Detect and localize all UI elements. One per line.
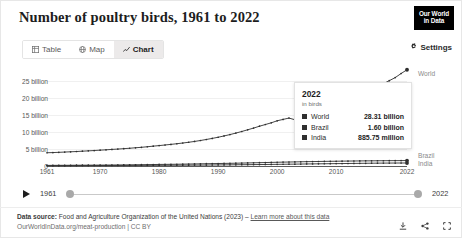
data-source-dash: –: [245, 213, 249, 220]
tab-map[interactable]: Map: [70, 41, 114, 58]
timeline-control[interactable]: 1961 2022: [0, 186, 462, 202]
data-point: [253, 164, 255, 166]
data-point: [152, 145, 154, 147]
data-point: [400, 160, 402, 162]
data-source-text: Food and Agriculture Organization of the…: [59, 213, 243, 220]
tooltip-name-india: India: [311, 134, 326, 141]
data-point: [394, 162, 396, 164]
data-source-prefix: Data source:: [17, 213, 57, 220]
swatch-world: [302, 114, 307, 119]
data-point: [306, 163, 308, 165]
data-point: [46, 152, 48, 154]
data-point: [223, 163, 225, 165]
view-tabs: Table Map Chart: [22, 40, 164, 59]
data-point: [70, 165, 72, 167]
data-point: [170, 144, 172, 146]
data-point: [105, 165, 107, 167]
data-point: [335, 160, 337, 162]
data-point: [176, 164, 178, 166]
tab-chart[interactable]: Chart: [114, 41, 163, 58]
tab-chart-label: Chart: [133, 45, 154, 54]
data-point: [276, 120, 278, 122]
settings-button[interactable]: Settings: [410, 43, 452, 53]
data-point: [235, 132, 237, 134]
chart-line-icon: [123, 46, 130, 53]
data-point: [335, 163, 337, 165]
data-point: [400, 162, 402, 164]
data-point: [265, 164, 267, 166]
gear-icon: [410, 43, 418, 53]
data-point: [164, 144, 166, 146]
data-point: [205, 164, 207, 166]
data-point: [353, 163, 355, 165]
timeline-handle-end[interactable]: [414, 190, 422, 198]
data-point: [259, 164, 261, 166]
data-point: [194, 141, 196, 143]
timeline-handle-start[interactable]: [66, 190, 74, 198]
download-icon[interactable]: [399, 216, 407, 234]
data-point: [329, 163, 331, 165]
data-point: [188, 141, 190, 143]
timeline-end-year: 2022: [432, 189, 448, 198]
data-point: [176, 143, 178, 145]
data-point: [182, 164, 184, 166]
tab-table[interactable]: Table: [23, 41, 70, 58]
data-point: [294, 163, 296, 165]
owid-logo[interactable]: Our World in Data: [414, 6, 454, 30]
data-point: [93, 165, 95, 167]
data-point: [318, 161, 320, 163]
data-point: [270, 164, 272, 166]
xtick-label-1990: 1990: [211, 168, 226, 175]
data-point: [229, 134, 231, 136]
data-point: [194, 164, 196, 166]
page-title: Number of poultry birds, 1961 to 2022: [19, 9, 260, 26]
data-point: [324, 161, 326, 163]
data-point: [377, 160, 379, 162]
tooltip-year: 2022: [302, 89, 404, 99]
timeline-track[interactable]: [69, 194, 418, 196]
footer-actions: [399, 216, 451, 234]
data-point: [200, 164, 202, 166]
data-point: [394, 160, 396, 162]
data-point: [282, 119, 284, 121]
data-point: [359, 160, 361, 162]
data-point: [146, 165, 148, 167]
data-point: [200, 140, 202, 142]
data-point: [347, 163, 349, 165]
data-point: [288, 117, 290, 119]
data-point: [76, 165, 78, 167]
data-point: [58, 165, 60, 167]
data-point: [253, 127, 255, 129]
data-point: [353, 160, 355, 162]
play-icon[interactable]: [22, 189, 31, 199]
logo-line-2: in Data: [424, 18, 445, 25]
data-point: [111, 165, 113, 167]
data-point: [241, 162, 243, 164]
series-label-brazil: Brazil: [418, 152, 435, 159]
data-point: [105, 149, 107, 151]
tooltip-name-world: World: [311, 113, 329, 120]
share-icon[interactable]: [421, 216, 429, 234]
data-point: [164, 164, 166, 166]
data-point: [141, 165, 143, 167]
data-point: [247, 129, 249, 131]
xtick-label-1980: 1980: [152, 168, 167, 175]
data-point: [300, 161, 302, 163]
data-point: [229, 164, 231, 166]
tooltip-value-brazil: 1.60 billion: [368, 124, 404, 131]
data-point: [388, 160, 390, 162]
learn-more-link[interactable]: Learn more about this data: [251, 213, 330, 220]
data-point: [241, 131, 243, 133]
data-point: [211, 164, 213, 166]
data-point: [170, 164, 172, 166]
globe-icon: [79, 46, 86, 53]
timeline-start-year: 1961: [40, 189, 56, 198]
data-point: [247, 162, 249, 164]
data-point: [235, 164, 237, 166]
tab-map-label: Map: [89, 45, 105, 54]
data-point: [152, 165, 154, 167]
data-point: [70, 151, 72, 153]
expand-icon[interactable]: [443, 216, 451, 234]
data-source-line: Data source: Food and Agriculture Organi…: [17, 213, 329, 220]
data-point: [312, 163, 314, 165]
